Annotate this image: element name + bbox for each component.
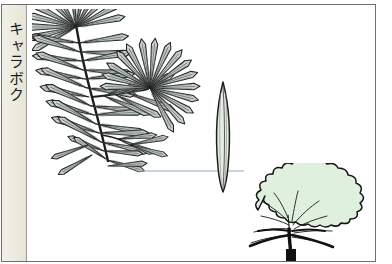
- illustration-plate: [28, 5, 375, 261]
- tree-habit-illustration: [206, 163, 375, 261]
- plate-frame: キャラボク: [1, 4, 376, 262]
- branch-with-needles-illustration: [32, 9, 212, 184]
- plant-name-vertical-title: キャラボク: [5, 21, 25, 104]
- plate-page: キャラボク: [0, 0, 392, 264]
- vertical-label-band: キャラボク: [2, 5, 27, 261]
